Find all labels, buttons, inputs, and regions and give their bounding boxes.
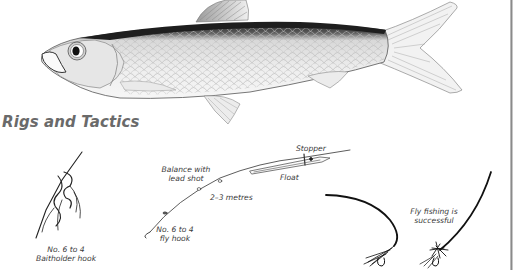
fly-fishing-caption: Fly fishing is successful	[404, 208, 464, 225]
tail-fin	[378, 2, 462, 93]
fly-hook-caption: No. 6 to 4 fly hook	[150, 226, 200, 243]
distance-caption: 2–3 metres	[210, 194, 253, 203]
page: Rigs and Tactics No. 6 to 4 Baitholder h…	[0, 0, 513, 270]
baitholder-caption-line2: Baitholder hook	[36, 255, 96, 264]
fish-body	[41, 22, 388, 99]
fish-illustration	[0, 0, 513, 270]
fly-hook-caption-line2: fly hook	[150, 235, 200, 244]
dorsal-fin	[196, 0, 249, 22]
baitholder-hook-illustration	[36, 152, 82, 238]
fly-caption-line2: successful	[404, 217, 464, 226]
baitholder-hook-caption: No. 6 to 4 Baitholder hook	[36, 246, 96, 263]
float-caption: Float	[280, 174, 299, 183]
stopper-caption: Stopper	[296, 145, 326, 154]
balance-shot-caption: Balance with lead shot	[156, 166, 216, 183]
fly-illustration-left	[326, 195, 397, 266]
section-title: Rigs and Tactics	[2, 113, 140, 131]
balance-caption-line2: lead shot	[156, 175, 216, 184]
